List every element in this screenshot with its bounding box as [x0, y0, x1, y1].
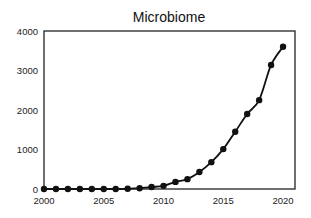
y-tick-label: 3000 — [17, 65, 38, 76]
data-points — [41, 44, 286, 193]
data-point-marker — [113, 186, 119, 192]
data-point-marker — [256, 97, 262, 103]
x-axis-ticks: 20002005201020152020 — [33, 195, 293, 206]
data-point-marker — [77, 186, 83, 192]
x-tick-label: 2015 — [213, 195, 234, 206]
y-tick-label: 1000 — [17, 144, 38, 155]
data-point-marker — [208, 159, 214, 165]
data-point-marker — [65, 186, 71, 192]
x-tick-label: 2005 — [93, 195, 114, 206]
data-point-marker — [41, 186, 47, 192]
microbiome-line-chart: Microbiome 01000200030004000 20002005201… — [0, 0, 311, 218]
plot-area-frame — [44, 31, 295, 189]
data-point-marker — [268, 62, 274, 68]
data-point-marker — [160, 183, 166, 189]
x-tick-label: 2020 — [272, 195, 293, 206]
y-tick-label: 0 — [33, 184, 38, 195]
data-point-marker — [232, 129, 238, 135]
data-point-marker — [280, 44, 286, 50]
data-point-marker — [244, 111, 250, 117]
chart-title: Microbiome — [133, 9, 206, 25]
y-tick-label: 4000 — [17, 26, 38, 37]
data-point-marker — [184, 176, 190, 182]
data-point-marker — [148, 184, 154, 190]
data-point-marker — [136, 185, 142, 191]
x-tick-label: 2010 — [153, 195, 174, 206]
data-point-marker — [220, 146, 226, 152]
data-point-marker — [172, 179, 178, 185]
trend-line — [44, 47, 283, 189]
y-axis-ticks: 01000200030004000 — [17, 26, 38, 195]
data-point-marker — [196, 169, 202, 175]
data-point-marker — [101, 186, 107, 192]
data-point-marker — [124, 186, 130, 192]
y-tick-label: 2000 — [17, 105, 38, 116]
data-point-marker — [89, 186, 95, 192]
x-tick-label: 2000 — [33, 195, 54, 206]
data-point-marker — [53, 186, 59, 192]
